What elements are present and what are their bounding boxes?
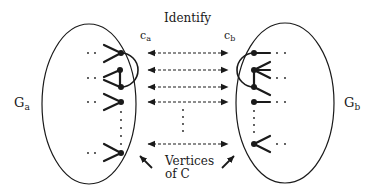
graph-gb-vertex-dots — [251, 50, 286, 147]
vertex-cb-5 — [251, 141, 257, 147]
caption-line-2: of C — [165, 168, 214, 181]
vertex-cb-4 — [251, 99, 257, 105]
label-ca: ca — [140, 30, 151, 43]
label-gb: Gb — [344, 96, 360, 112]
vertex-ca-3 — [118, 84, 124, 90]
label-ga: Ga — [14, 96, 30, 112]
identify-diagram: Identify ca cb Ga Gb Vertices of C — [0, 0, 371, 185]
graph-gb-boundary — [236, 23, 334, 183]
pointer-arrow-right — [222, 156, 234, 168]
vertex-ca-1 — [118, 50, 124, 56]
graph-ga-vertex-dots — [87, 50, 124, 156]
vertex-ca-5 — [118, 150, 124, 156]
vertex-ca-4 — [118, 99, 124, 105]
diagram-title: Identify — [164, 12, 211, 24]
caption-vertices-of-c: Vertices of C — [165, 155, 214, 181]
pointer-arrow-left — [140, 156, 152, 168]
vertex-cb-2 — [251, 67, 257, 73]
vertex-cb-3 — [251, 84, 257, 90]
vertex-ca-2 — [117, 67, 123, 73]
label-cb: cb — [224, 30, 235, 43]
middle-ellipsis — [182, 109, 184, 132]
vertex-cb-1 — [251, 50, 257, 56]
identify-arrows — [148, 53, 228, 144]
